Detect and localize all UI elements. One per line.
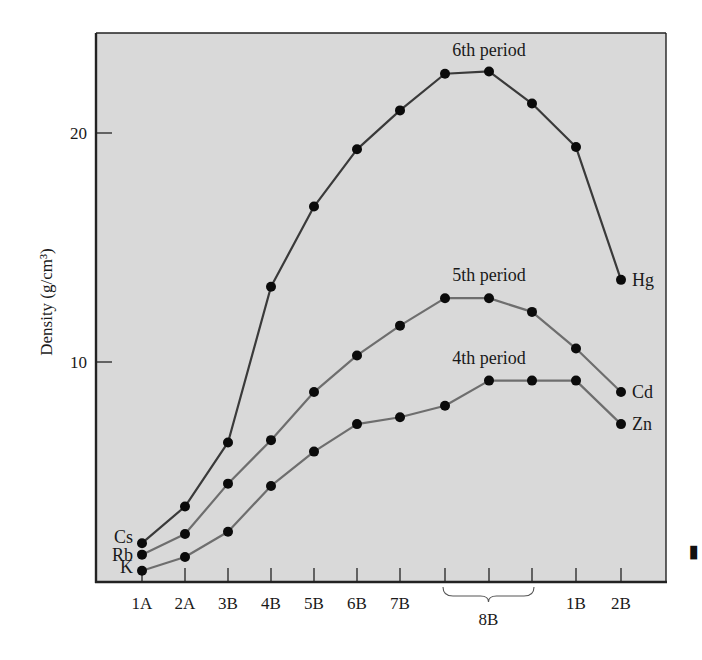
data-point	[180, 529, 190, 539]
y-axis-title: Density (g/cm³)	[37, 248, 56, 356]
data-point	[223, 527, 233, 537]
x-tick-label: 4B	[261, 594, 281, 613]
data-point	[571, 142, 581, 152]
data-point	[395, 412, 405, 422]
data-point	[484, 376, 494, 386]
data-point	[309, 202, 319, 212]
data-point	[571, 344, 581, 354]
x-tick-label: 1A	[132, 594, 154, 613]
element-label-end: Hg	[632, 270, 654, 290]
data-point	[223, 437, 233, 447]
data-point	[309, 387, 319, 397]
x-tick-label: 6B	[347, 594, 367, 613]
data-point	[223, 479, 233, 489]
data-point	[352, 419, 362, 429]
element-label-end: Zn	[632, 414, 652, 434]
data-point	[395, 105, 405, 115]
data-point	[352, 144, 362, 154]
data-point	[395, 321, 405, 331]
y-tick-label: 10	[70, 353, 87, 372]
x-tick-label: 5B	[304, 594, 324, 613]
data-point	[440, 401, 450, 411]
data-point	[180, 502, 190, 512]
data-point	[571, 376, 581, 386]
series-annotation: 4th period	[452, 348, 526, 368]
data-point	[309, 447, 319, 457]
data-point	[180, 552, 190, 562]
data-point	[266, 435, 276, 445]
data-point	[616, 387, 626, 397]
x-tick-label: 1B	[566, 594, 586, 613]
y-tick-label: 20	[70, 124, 87, 143]
data-point	[137, 566, 147, 576]
data-point	[440, 293, 450, 303]
data-point	[352, 350, 362, 360]
data-point	[484, 293, 494, 303]
data-point	[266, 282, 276, 292]
series-annotation: 5th period	[452, 265, 526, 285]
x-group-label: 8B	[479, 610, 499, 629]
data-point	[527, 376, 537, 386]
x-tick-label: 7B	[390, 594, 410, 613]
series-annotation: 6th period	[452, 40, 526, 60]
group-brace	[443, 587, 534, 602]
data-point	[440, 69, 450, 79]
data-point	[137, 550, 147, 560]
data-point	[616, 419, 626, 429]
element-label-end: Cd	[632, 382, 653, 402]
x-tick-label: 2B	[611, 594, 631, 613]
plot-area	[96, 33, 666, 582]
data-point	[266, 481, 276, 491]
data-point	[616, 275, 626, 285]
density-chart: 1020Density (g/cm³) 1A2A3B4B5B6B7B1B2B8B…	[0, 0, 702, 660]
data-point	[484, 66, 494, 76]
data-point	[137, 538, 147, 548]
data-point	[527, 99, 537, 109]
caption-fragment: ▮	[689, 541, 702, 562]
x-tick-label: 3B	[218, 594, 238, 613]
element-label-start: K	[120, 557, 133, 577]
data-point	[527, 307, 537, 317]
x-tick-label: 2A	[175, 594, 197, 613]
